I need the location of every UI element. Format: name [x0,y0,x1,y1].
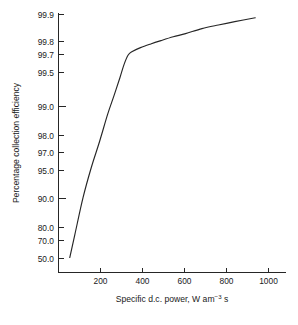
x-axis-ticks: 200 400 600 800 1000 [94,268,279,287]
data-series-group [70,18,255,258]
x-tick-label: 400 [136,276,150,286]
x-tick-label: 600 [178,276,192,286]
x-tick-label: 200 [94,276,108,286]
chart-figure: 99.9 99.8 99.7 99.5 99.0 98.0 97.0 95.0 [0,0,298,325]
y-tick-label: 99.0 [38,102,55,112]
x-tick-label: 800 [220,276,234,286]
y-axis-title: Percentage collection efficiency [11,82,21,203]
y-tick-label: 98.0 [38,131,55,141]
axes [58,13,286,273]
y-tick-label: 99.5 [38,68,55,78]
y-tick-label: 97.0 [38,148,55,158]
data-curve-collection-efficiency [70,18,255,258]
y-tick-label: 90.0 [38,194,55,204]
y-tick-label: 99.8 [38,37,55,47]
y-tick-label: 80.0 [38,223,55,233]
x-axis-title: Specific d.c. power, W am−3 s [116,292,229,304]
collection-efficiency-chart: 99.9 99.8 99.7 99.5 99.0 98.0 97.0 95.0 [0,0,298,325]
y-tick-label: 99.7 [38,50,55,60]
figure-caption-partial [0,313,298,324]
y-tick-label: 95.0 [38,166,55,176]
y-tick-label: 99.9 [38,10,55,20]
y-tick-label: 70.0 [38,236,55,246]
y-tick-label: 50.0 [38,254,55,264]
y-axis-ticks: 99.9 99.8 99.7 99.5 99.0 98.0 97.0 95.0 [38,10,66,264]
x-tick-label: 1000 [259,276,278,286]
